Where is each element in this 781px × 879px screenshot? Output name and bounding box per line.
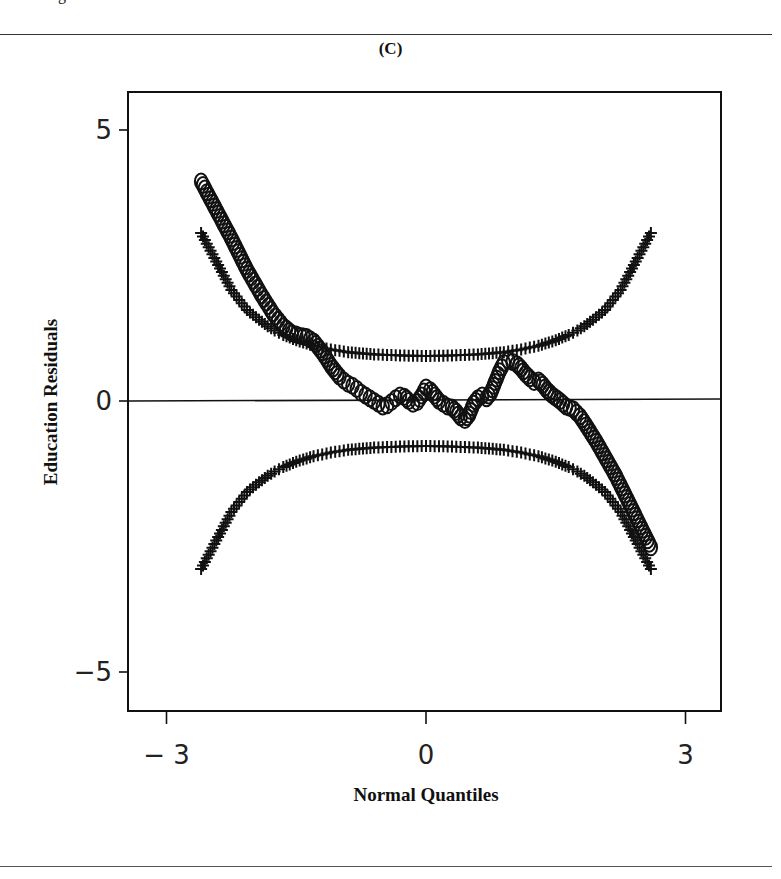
x-axis: − 303 [143,711,694,770]
y-axis-title: Education Residuals [40,319,61,485]
y-tick-label: 5 [95,115,112,145]
qq-plot: 50−5 − 303 Normal Quantiles Education Re… [0,0,781,879]
x-tick-label: 0 [418,740,435,770]
data-points [195,173,657,575]
bottom-rule [0,866,772,867]
y-axis: 50−5 [74,115,128,687]
x-tick-label: − 3 [143,740,190,770]
y-tick-label: 0 [95,386,112,416]
x-tick-label: 3 [677,740,694,770]
x-axis-title: Normal Quantiles [353,784,498,805]
y-tick-label: −5 [74,657,112,687]
